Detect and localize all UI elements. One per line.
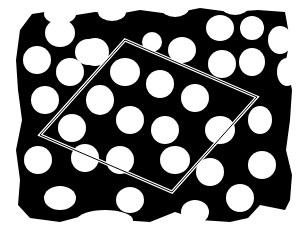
micrograph xyxy=(0,0,304,232)
